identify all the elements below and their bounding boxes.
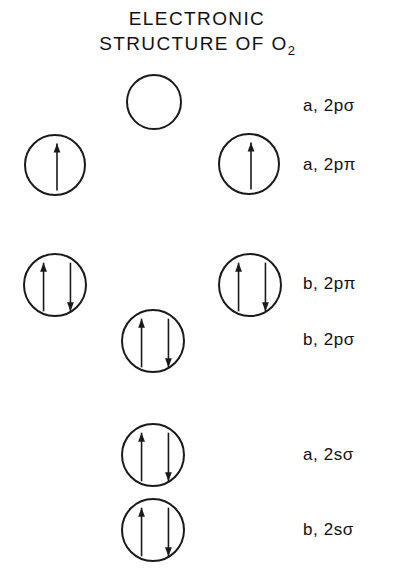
orbital-circle bbox=[218, 133, 280, 195]
electron-arrow-up-icon bbox=[138, 319, 145, 368]
electronic-structure-diagram: ELECTRONIC STRUCTURE OF O2 a, 2pσa, 2pπb… bbox=[0, 0, 394, 584]
orbital-circle bbox=[121, 498, 185, 562]
electron-arrow-down-icon bbox=[67, 263, 74, 312]
orbital-circle bbox=[121, 309, 185, 373]
electron-spins-group bbox=[220, 135, 282, 197]
electron-spins-group bbox=[123, 425, 187, 489]
electron-spins-group bbox=[26, 136, 88, 198]
electron-arrow-up-icon bbox=[138, 433, 145, 482]
diagram-title-subscript: 2 bbox=[288, 43, 295, 58]
electron-arrow-up-icon bbox=[54, 143, 61, 190]
orbital-circle bbox=[24, 134, 86, 196]
diagram-title-line-1: ELECTRONIC bbox=[0, 8, 394, 30]
orbital-circle bbox=[23, 253, 87, 317]
electron-arrow-down-icon bbox=[165, 508, 172, 557]
electron-arrow-up-icon bbox=[138, 508, 145, 557]
diagram-title-main: STRUCTURE OF O bbox=[99, 33, 288, 54]
electron-spins-group bbox=[25, 255, 89, 319]
orbital-circle bbox=[218, 253, 282, 317]
electron-arrow-down-icon bbox=[165, 319, 172, 368]
level-label-a-2p-pi: a, 2pπ bbox=[303, 155, 356, 175]
level-label-b-2s-sigma: b, 2sσ bbox=[303, 520, 354, 540]
electron-spins-group bbox=[123, 311, 187, 375]
orbital-circle bbox=[121, 423, 185, 487]
electron-arrow-down-icon bbox=[165, 433, 172, 482]
level-label-b-2p-sigma: b, 2pσ bbox=[303, 330, 355, 350]
electron-spins-group bbox=[220, 255, 284, 319]
electron-arrow-up-icon bbox=[248, 142, 255, 189]
level-label-b-2p-pi: b, 2pπ bbox=[303, 274, 356, 294]
electron-arrow-up-icon bbox=[235, 263, 242, 312]
electron-spins-group bbox=[123, 500, 187, 564]
level-label-a-2s-sigma: a, 2sσ bbox=[303, 445, 354, 465]
electron-arrow-up-icon bbox=[40, 263, 47, 312]
electron-arrow-down-icon bbox=[262, 263, 269, 312]
diagram-title-line-2: STRUCTURE OF O2 bbox=[0, 33, 394, 58]
orbital-circle bbox=[126, 74, 182, 130]
level-label-a-2p-sigma: a, 2pσ bbox=[303, 96, 355, 116]
